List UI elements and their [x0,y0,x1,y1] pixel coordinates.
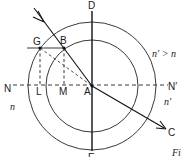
label-m: M [59,86,67,97]
label-medium-n-prime: n′ [164,96,172,107]
label-b: B [60,35,67,46]
label-e: E [88,152,95,157]
refracted-ray [92,86,164,128]
refracted-arrow-icon [156,121,166,129]
label-a: A [84,86,91,97]
figure-caption: Fi [171,147,181,157]
label-n-prime: N′ [168,81,177,92]
label-d: D [88,0,95,11]
dashed-ga [40,48,92,86]
label-c: C [168,127,175,138]
point-a [90,84,93,87]
label-medium-upper: n′ > n [152,48,176,59]
refraction-construction-diagram: D E G B N L M A N′ C n′ > n n n′ Fi [0,0,183,157]
point-b [62,46,65,49]
label-n: N [4,83,11,94]
incident-arrow-icon [33,11,44,22]
label-medium-n: n [10,101,15,112]
label-l: L [36,86,42,97]
label-g: G [33,36,41,47]
